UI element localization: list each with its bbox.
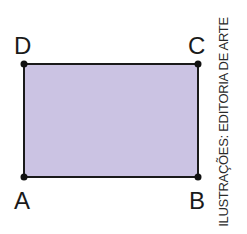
vertex-b-point xyxy=(195,174,202,181)
rectangle-abcd xyxy=(24,64,198,177)
vertex-label-b: B xyxy=(189,189,205,213)
vertex-c-point xyxy=(195,61,202,68)
vertex-a-point xyxy=(21,174,28,181)
rectangle-diagram xyxy=(0,0,247,234)
vertex-d-point xyxy=(21,61,28,68)
vertex-label-d: D xyxy=(14,34,31,58)
vertex-label-a: A xyxy=(14,189,30,213)
illustration-credit: ILUSTRAÇÕES: EDITORIA DE ARTE xyxy=(216,17,231,227)
vertex-label-c: C xyxy=(188,34,205,58)
